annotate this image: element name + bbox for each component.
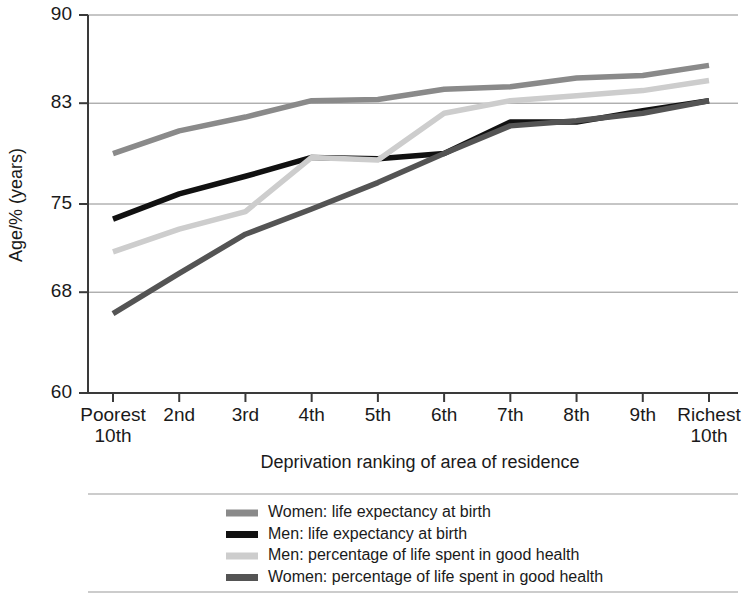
x-tick-label-2: 3rd bbox=[232, 404, 259, 425]
y-tick-label-68: 68 bbox=[51, 280, 72, 301]
x-tick-label-8: 9th bbox=[630, 404, 656, 425]
y-tick-label-90: 90 bbox=[51, 3, 72, 24]
x-axis-title: Deprivation ranking of area of residence bbox=[260, 452, 579, 472]
x-tick-label-6: 7th bbox=[497, 404, 523, 425]
x-tick-label-5: 6th bbox=[431, 404, 457, 425]
y-tick-label-83: 83 bbox=[51, 91, 72, 112]
legend-label-3: Women: percentage of life spent in good … bbox=[268, 568, 603, 585]
x-tick-label-7: 8th bbox=[563, 404, 589, 425]
chart-legend: Women: life expectancy at birthMen: life… bbox=[88, 494, 738, 592]
y-axis-ticks: 6068758390 bbox=[51, 3, 88, 402]
series-line-0 bbox=[113, 65, 709, 153]
x-tick-label-4: 5th bbox=[365, 404, 391, 425]
data-series bbox=[113, 65, 709, 313]
x-tick-label-0: Poorest10th bbox=[80, 404, 146, 446]
legend-label-0: Women: life expectancy at birth bbox=[268, 503, 491, 520]
x-tick-label-1: 2nd bbox=[163, 404, 195, 425]
y-tick-label-60: 60 bbox=[51, 381, 72, 402]
series-line-3 bbox=[113, 101, 709, 314]
x-tick-label-3: 4th bbox=[298, 404, 324, 425]
chart-figure: 6068758390 Poorest10th2nd3rd4th5th6th7th… bbox=[0, 0, 753, 605]
line-chart: 6068758390 Poorest10th2nd3rd4th5th6th7th… bbox=[0, 0, 753, 605]
legend-label-1: Men: life expectancy at birth bbox=[268, 525, 467, 542]
legend-label-2: Men: percentage of life spent in good he… bbox=[268, 546, 579, 563]
x-tick-label-9: Richest10th bbox=[677, 404, 741, 446]
y-tick-label-75: 75 bbox=[51, 192, 72, 213]
x-axis-ticks: Poorest10th2nd3rd4th5th6th7th8th9thRiche… bbox=[80, 393, 741, 446]
y-axis-title: Age/% (years) bbox=[6, 148, 26, 262]
